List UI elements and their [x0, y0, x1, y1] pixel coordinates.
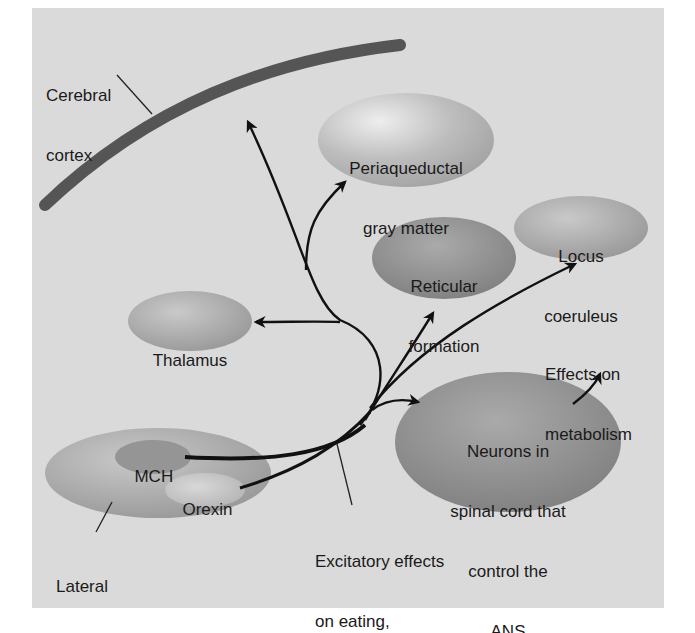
lateral-hypothalamus-label: Lateral hypothalamus: [56, 537, 162, 633]
mch-label: MCH: [125, 447, 173, 487]
cerebral-cortex-leader: [117, 75, 152, 114]
reticular-formation-label: Reticular formation: [384, 237, 504, 377]
excitatory-leader: [337, 444, 352, 505]
spinal-neurons-label: Neurons in spinal cord that control the …: [418, 402, 598, 633]
cerebral-cortex-label: Cerebral cortex: [46, 46, 111, 186]
orexin-label: Orexin: [173, 480, 233, 520]
excitatory-effects-label: Excitatory effects on eating, reduction …: [315, 512, 444, 633]
thalamus-label: Thalamus: [128, 311, 252, 391]
